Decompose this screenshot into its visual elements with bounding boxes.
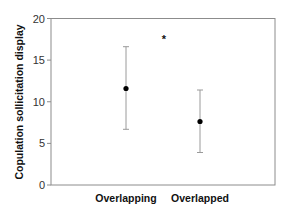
- y-tick-label: 20: [33, 13, 45, 25]
- data-point-overlapping: [123, 47, 129, 130]
- x-category-label: Overlapped: [171, 192, 229, 204]
- y-tick-label: 15: [33, 54, 45, 66]
- y-tick-label: 5: [39, 137, 45, 149]
- x-category-label: Overlapping: [95, 192, 156, 204]
- y-tick-label: 10: [33, 96, 45, 108]
- chart: 0 5 10 15 20 Copulation sollicitation di…: [0, 0, 287, 215]
- data-point-overlapped: [197, 90, 203, 153]
- y-tick-label: 0: [39, 179, 45, 191]
- significance-marker: *: [162, 33, 167, 45]
- y-axis: 0 5 10 15 20: [33, 13, 51, 192]
- y-axis-title: Copulation sollicitation display: [13, 24, 25, 179]
